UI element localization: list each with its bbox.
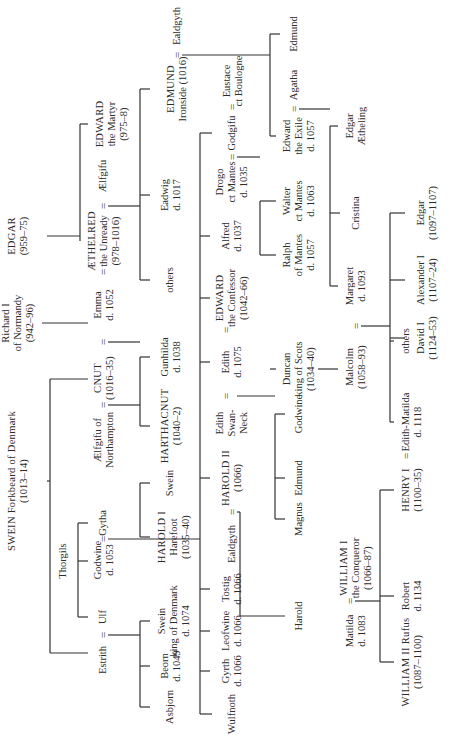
person-beorn: Beornd. 1049 xyxy=(159,650,183,682)
person-name: Edgar xyxy=(415,186,427,240)
person-detail: ct Mantes xyxy=(293,180,305,221)
person-name: Richard I xyxy=(0,295,12,351)
person-detail: d. 1093 xyxy=(356,267,368,305)
marriage-sign: = xyxy=(350,323,362,329)
marriage-sign: = xyxy=(97,536,109,542)
person-name: Swein xyxy=(164,470,176,496)
person-detail: d. 1035 xyxy=(238,161,250,202)
person-detail: d. 1038 xyxy=(171,337,183,376)
person-ealdgyth-b: Ealdgyth xyxy=(226,525,238,563)
person-detail: d. 1083 xyxy=(356,615,368,648)
marriage-sign: = xyxy=(344,598,356,604)
person-ralph: Ralphof Mantesd. 1057 xyxy=(281,234,317,276)
person-name: Godwine xyxy=(293,395,305,434)
person-name: Eustace xyxy=(221,55,233,106)
person-detail: ct Boulogne xyxy=(233,55,245,106)
person-edith-sn: EdithSwan-Neck xyxy=(214,410,250,437)
person-name: Godwine xyxy=(92,541,104,580)
person-name: HAROLD I xyxy=(156,511,168,563)
person-detail: d. 1074 xyxy=(180,585,192,657)
marriage-sign: = xyxy=(97,339,109,345)
person-name: Alfred xyxy=(220,220,232,252)
person-walter: Walterct Mantesd. 1063 xyxy=(281,180,317,221)
person-name: EDGAR xyxy=(6,217,18,256)
person-detail: d. 1134 xyxy=(412,580,424,611)
person-name: ÆTHELRED xyxy=(86,211,98,271)
person-william-i: WILLIAM Ithe Conqueror(1066–87) xyxy=(338,538,374,598)
person-detail: (959–75) xyxy=(18,217,30,256)
person-name: Emma xyxy=(92,289,104,321)
person-name: Asbjorn xyxy=(164,690,176,724)
person-detail: (1040–2) xyxy=(171,389,183,464)
person-name: EDWARD xyxy=(94,101,106,148)
person-detail: d. 1118 xyxy=(412,393,424,452)
person-name: Walter xyxy=(281,180,293,221)
person-edgar-aetheling: EdgarÆtheling xyxy=(344,107,368,146)
person-detail: (942–96) xyxy=(24,295,36,351)
person-swein-k: Sweinking of Denmarkd. 1074 xyxy=(156,585,192,657)
person-name: Drogo xyxy=(214,161,226,202)
person-detail: of Normandy xyxy=(12,295,24,351)
person-name: Magnus xyxy=(293,502,305,536)
person-alexander: Alexander I(1107–24) xyxy=(415,255,439,305)
person-name: Duncan xyxy=(281,341,293,396)
person-detail: king of Scots xyxy=(293,341,305,396)
marriage-sign: = xyxy=(97,632,109,638)
person-ulf: Ulf xyxy=(97,610,109,624)
person-name: Godgifu xyxy=(226,116,238,151)
person-malcolm: Malcolm(1058–93) xyxy=(344,345,368,389)
person-detail: Swan- xyxy=(226,410,238,437)
person-detail: (1066–87) xyxy=(362,538,374,598)
person-name: Edith xyxy=(214,410,226,437)
person-detail: (1013–14) xyxy=(18,411,30,551)
marriage-sign: = xyxy=(171,52,183,58)
person-detail: d. 1052 xyxy=(104,289,116,321)
person-harold-ii: HAROLD II(1066) xyxy=(220,450,244,506)
person-name: Cristina xyxy=(350,196,362,229)
person-detail: of Mantes xyxy=(293,234,305,276)
family-tree-diagram: EDGAR(959–75)Richard Iof Normandy(942–96… xyxy=(0,0,454,741)
person-name: Ulf xyxy=(97,610,109,624)
person-richard: Richard Iof Normandy(942–96) xyxy=(0,295,36,351)
person-harold-i: HAROLD IHarefoot(1035–40) xyxy=(156,511,192,563)
person-name: Thorgils xyxy=(57,543,69,578)
person-edith-g: Edithd. 1075 xyxy=(220,346,244,378)
person-ealdgyth-a: Ealdgyth xyxy=(171,7,183,45)
person-others-a: others xyxy=(164,267,176,293)
person-edmund-ironside: EDMUNDIronside (1016) xyxy=(165,56,189,121)
person-name: WILLIAM II Rufus xyxy=(400,618,412,707)
person-detail: Ætheling xyxy=(356,107,368,146)
person-leofwine: Leofwined. 1066 xyxy=(220,611,244,651)
person-name: Robert xyxy=(400,580,412,611)
person-aelfgifu: Ælfgifu xyxy=(97,160,109,193)
person-name: CNUT xyxy=(92,356,104,400)
person-name: Ralph xyxy=(281,234,293,276)
person-duncan: Duncanking of Scots(1034–40) xyxy=(281,341,317,396)
person-detail: the Confessor xyxy=(226,269,238,327)
person-cristina: Cristina xyxy=(350,196,362,229)
person-estrith: Estrith xyxy=(97,646,109,674)
person-detail: (975–8) xyxy=(118,101,130,148)
person-detail: d. 1066 xyxy=(232,655,244,687)
person-agatha: Agatha xyxy=(288,70,300,100)
person-edward-confessor: EDWARDthe Confessor(1042–66) xyxy=(214,269,250,327)
person-name: others xyxy=(400,328,412,354)
person-detail: the Conqueror xyxy=(350,538,362,598)
person-detail: d. 1063 xyxy=(305,180,317,221)
person-emma: Emmad. 1052 xyxy=(92,289,116,321)
person-david: David I(1124–53) xyxy=(415,316,439,359)
person-name: Edith-Matilda xyxy=(400,393,412,452)
person-gyrth: Gyrthd. 1066 xyxy=(220,655,244,687)
marriage-sign: = xyxy=(97,203,109,209)
person-name: Malcolm xyxy=(344,345,356,389)
person-name: Estrith xyxy=(97,646,109,674)
person-detail: (1097–1107) xyxy=(427,186,439,240)
person-name: Gytha xyxy=(97,510,109,536)
person-detail: d. 1037 xyxy=(232,220,244,252)
person-name: Agatha xyxy=(288,70,300,100)
person-detail: (978–1016) xyxy=(110,211,122,271)
person-cnut: CNUT(1016–35) xyxy=(92,356,116,400)
person-detail: (1035–40) xyxy=(180,511,192,563)
person-detail: (1107–24) xyxy=(427,255,439,305)
person-name: SWEIN Forkbeard of Denmark xyxy=(6,411,18,551)
